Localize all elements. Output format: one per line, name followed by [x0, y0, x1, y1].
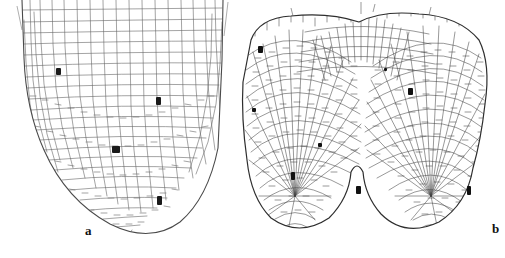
panel-a-drawing	[0, 0, 250, 258]
panel-a-cell-mesh	[23, 0, 222, 238]
figure-root-apex-sections: a	[0, 0, 505, 258]
panel-b-drawing	[233, 0, 505, 258]
panel-b-cell-mesh	[245, 8, 487, 228]
panel-b-label: b	[492, 222, 499, 235]
panel-b-top-strands	[291, 2, 431, 16]
panel-a-label: a	[85, 224, 92, 237]
panel-a-normal-root-apex: a	[0, 0, 250, 258]
panel-b-bifurcated-root-apex: b	[233, 0, 505, 258]
